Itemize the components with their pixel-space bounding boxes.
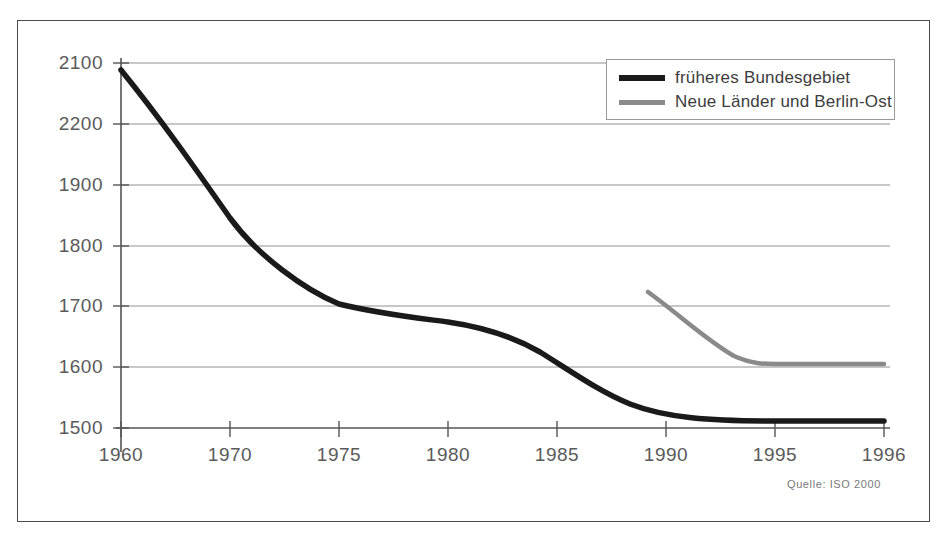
legend-swatch-icon xyxy=(619,100,665,105)
x-tick-label: 1970 xyxy=(185,444,275,466)
x-tick-label: 1980 xyxy=(403,444,493,466)
chart-figure: 2100 2200 1900 1800 1700 1600 1500 1960 … xyxy=(0,0,951,543)
x-tick-label: 1985 xyxy=(512,444,602,466)
y-tick-label: 1700 xyxy=(33,295,103,317)
y-tick-label: 1500 xyxy=(33,417,103,439)
x-tick-label: 1996 xyxy=(839,444,929,466)
x-tick-label: 1975 xyxy=(294,444,384,466)
y-tick-label: 1900 xyxy=(33,174,103,196)
legend-entry-label: Neue Länder und Berlin-Ost xyxy=(675,92,892,112)
y-tick-label: 2100 xyxy=(33,52,103,74)
series-line-neue-laender-berlin-ost xyxy=(648,292,884,364)
x-tick-label: 1960 xyxy=(76,444,166,466)
x-tick-label: 1995 xyxy=(730,444,820,466)
x-tick-label: 1990 xyxy=(621,444,711,466)
legend-entry-label: früheres Bundesgebiet xyxy=(675,68,850,88)
legend-entry: Neue Länder und Berlin-Ost xyxy=(619,90,894,114)
legend-entry: früheres Bundesgebiet xyxy=(619,66,894,90)
legend-swatch-icon xyxy=(619,75,665,81)
y-tick-label: 2200 xyxy=(33,113,103,135)
y-tick-label: 1800 xyxy=(33,235,103,257)
chart-legend: früheres Bundesgebiet Neue Länder und Be… xyxy=(606,59,895,120)
source-note: Quelle: ISO 2000 xyxy=(787,478,881,490)
y-tick-label: 1600 xyxy=(33,356,103,378)
